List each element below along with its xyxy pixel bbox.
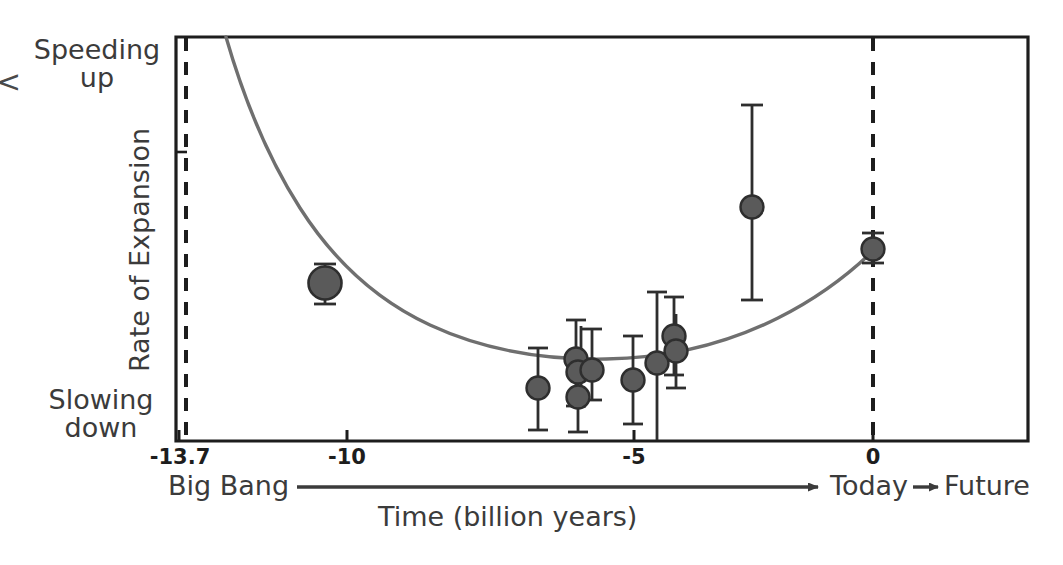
plot-frame — [176, 37, 1028, 441]
x-axis-tick-marks — [179, 430, 873, 441]
expansion-rate-chart: < Speeding up Slowing down Rate of Expan… — [0, 0, 1063, 565]
expansion-model-curve — [226, 37, 878, 359]
data-errorbars — [314, 105, 884, 440]
data-points — [309, 196, 885, 409]
plot-area — [0, 0, 1063, 565]
